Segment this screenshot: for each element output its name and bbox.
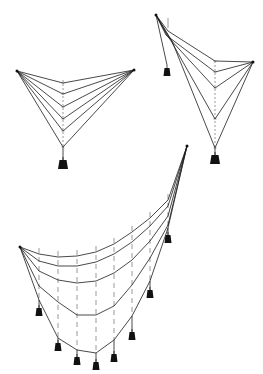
string-line (156, 15, 253, 88)
multi-weight-string-diagram (19, 145, 189, 371)
weight-icon (74, 357, 81, 365)
anchor-point (252, 61, 255, 64)
anchor-point (16, 70, 19, 73)
symmetric-string-diagram (16, 69, 136, 170)
string-line (156, 15, 253, 119)
weight-icon (164, 68, 171, 76)
string-curve (20, 146, 187, 315)
anchor-point (155, 14, 158, 17)
weight-icon (55, 343, 62, 351)
weight-icon (36, 308, 43, 316)
string-line (17, 70, 134, 147)
anchor-point (19, 246, 22, 249)
weight-icon (165, 235, 172, 243)
weight-icon (210, 155, 220, 164)
string-line (156, 15, 253, 148)
weight-icon (111, 354, 118, 362)
weight-icon (93, 362, 100, 370)
string-curve (20, 146, 187, 257)
string-line (17, 70, 134, 83)
string-line (156, 15, 253, 72)
string-curve (20, 146, 187, 353)
anchor-point (133, 69, 136, 72)
weight-icon (147, 290, 154, 298)
weight-icon (129, 332, 136, 340)
funicular-diagram (0, 0, 263, 374)
weight-icon (58, 160, 68, 169)
anchor-point (186, 145, 189, 148)
asymmetric-string-diagram (155, 14, 255, 165)
